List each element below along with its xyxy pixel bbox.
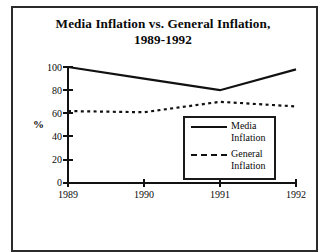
legend-item-general-inflation: General Inflation (185, 148, 274, 176)
series-line-general-inflation (68, 102, 296, 112)
legend-swatch-dashed-line-icon (191, 154, 227, 156)
legend-swatch-solid-line-icon (191, 126, 227, 128)
legend-label-general-inflation: General Inflation (231, 148, 273, 172)
legend-label-media-line-2: Inflation (231, 132, 273, 144)
legend-label-general-line-1: General (231, 148, 263, 159)
legend-item-media-inflation: Media Inflation (185, 120, 274, 148)
chart-legend: Media Inflation General Inflation (183, 116, 276, 180)
legend-label-general-line-2: Inflation (231, 160, 273, 172)
legend-label-media-line-1: Media (231, 120, 257, 131)
legend-label-media-inflation: Media Inflation (231, 120, 273, 144)
series-line-media-inflation (68, 67, 296, 90)
